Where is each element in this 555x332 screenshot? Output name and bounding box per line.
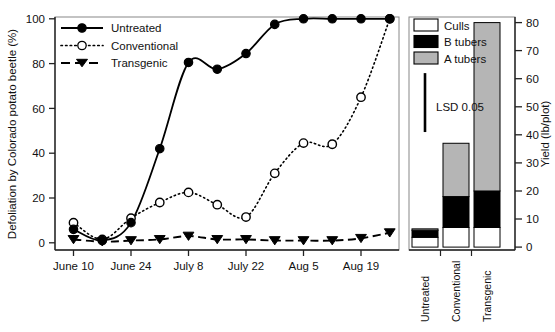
category-label-conventional: Conventional [450, 261, 462, 322]
figure-svg: 100 80 60 40 20 [0, 0, 555, 332]
left-y-tick-20: 20 [32, 192, 55, 204]
left-x-tick-aug-5: Aug 5 [288, 250, 318, 272]
category-label-transgenic: Transgenic [481, 270, 493, 322]
bar-segment-a-tubers [443, 143, 469, 196]
right-y-tick-label: 60 [526, 73, 539, 85]
lsd-label: LSD 0.05 [436, 101, 484, 113]
data-point-open-circle [271, 169, 279, 177]
left-y-tick-60: 60 [32, 103, 55, 115]
data-point-filled-circle [184, 58, 192, 66]
right-y-tick-label: 10 [526, 213, 539, 225]
stacked-bar-untreated[interactable] [412, 229, 438, 247]
data-point-filled-circle [357, 15, 365, 23]
left-y-tick-label: 20 [32, 192, 45, 204]
left-plot-frame [55, 17, 399, 250]
left-y-tick-label: 60 [32, 103, 45, 115]
legend-item-a-tubers[interactable]: A tubers [414, 52, 486, 65]
left-x-tick-label: July 8 [173, 260, 203, 272]
right-y-tick-label: 30 [526, 157, 539, 169]
data-point-filled-circle [328, 15, 336, 23]
left-x-tick-july-8: July 8 [173, 250, 203, 272]
data-point-open-circle [184, 188, 192, 196]
bar-segment-b-tubers [412, 230, 438, 237]
left-y-tick-label: 100 [26, 13, 45, 25]
legend-label: Culls [444, 20, 470, 32]
left-x-tick-label: July 22 [228, 260, 264, 272]
bar-segment-culls [474, 227, 500, 247]
legend-label: Untreated [111, 22, 162, 34]
left-x-tick-aug-19: Aug 19 [343, 250, 379, 272]
data-point-filled-circle [69, 225, 77, 233]
left-y-tick-100: 100 [26, 13, 55, 25]
data-point-open-circle [328, 140, 336, 148]
bar-segment-culls [443, 227, 469, 247]
right-y-tick-60: 60 [515, 73, 539, 85]
data-point-filled-circle [156, 145, 164, 153]
right-y-tick-label: 0 [526, 241, 532, 253]
right-y-tick-label: 80 [526, 17, 539, 29]
data-point-open-circle [299, 139, 307, 147]
left-y-tick-40: 40 [32, 147, 55, 159]
bar-segment-b-tubers [443, 197, 469, 228]
left-y-tick-80: 80 [32, 58, 55, 70]
right-y-tick-70: 70 [515, 45, 539, 57]
right-y-tick-40: 40 [515, 129, 539, 141]
data-point-filled-circle [213, 65, 221, 73]
left-y-tick-label: 80 [32, 58, 45, 70]
right-x-ticks [441, 250, 472, 256]
legend-label: Conventional [111, 40, 178, 52]
data-point-filled-circle [271, 20, 279, 28]
data-point-filled-circle [299, 15, 307, 23]
right-y-tick-20: 20 [515, 185, 539, 197]
left-x-tick-label: June 10 [53, 260, 94, 272]
right-y-tick-50: 50 [515, 101, 539, 113]
category-label-untreated: Untreated [419, 276, 431, 322]
right-y-tick-10: 10 [515, 213, 539, 225]
right-panel: 80 70 60 50 40 [409, 17, 551, 322]
left-legend: Untreated Conventional Transgenic [61, 22, 178, 69]
right-y-tick-80: 80 [515, 17, 539, 29]
data-point-filled-circle [98, 236, 106, 244]
left-y-axis-title: Defoliation by Colorado potato beetle (%… [6, 29, 18, 239]
stacked-bar-conventional[interactable] [443, 143, 469, 247]
left-x-ticks: June 10 June 24 July 8 July 22 Aug 5 [53, 250, 379, 272]
legend-label: A tubers [444, 53, 486, 65]
left-x-tick-july-22: July 22 [228, 250, 264, 272]
left-panel: 100 80 60 40 20 [6, 13, 399, 272]
a-tubers-swatch-icon [414, 52, 438, 64]
left-x-tick-label: June 24 [111, 260, 153, 272]
right-y-tick-label: 40 [526, 129, 539, 141]
legend-label: Transgenic [111, 57, 168, 69]
legend-item-b-tubers[interactable]: B tubers [414, 36, 487, 49]
right-y-ticks: 80 70 60 50 40 [515, 17, 539, 254]
open-circle-icon [78, 41, 86, 49]
right-y-tick-label: 50 [526, 101, 539, 113]
left-x-tick-june-24: June 24 [111, 250, 153, 272]
figure-container: 100 80 60 40 20 [0, 0, 555, 332]
data-point-open-circle [357, 93, 365, 101]
bar-segment-b-tubers [474, 191, 500, 227]
data-point-filled-circle [242, 49, 250, 57]
data-point-open-circle [156, 198, 164, 206]
right-y-tick-label: 70 [526, 45, 539, 57]
bar-segment-a-tubers [412, 229, 438, 230]
left-y-tick-label: 0 [39, 237, 45, 249]
left-y-tick-0: 0 [39, 237, 55, 249]
right-y-tick-label: 20 [526, 185, 539, 197]
left-y-ticks: 100 80 60 40 20 [26, 13, 55, 249]
culls-swatch-icon [414, 19, 438, 31]
right-y-axis-title: Yield (lb/plot) [539, 100, 551, 167]
filled-circle-icon [78, 24, 86, 32]
data-point-filled-circle [386, 15, 394, 23]
data-point-open-circle [242, 213, 250, 221]
left-y-tick-label: 40 [32, 147, 45, 159]
data-point-filled-circle [127, 218, 135, 226]
legend-label: B tubers [444, 36, 487, 48]
left-x-tick-label: Aug 5 [288, 260, 318, 272]
right-y-tick-0: 0 [515, 241, 532, 253]
bar-segment-culls [412, 237, 438, 247]
b-tubers-swatch-icon [414, 36, 438, 48]
left-x-tick-june-10: June 10 [53, 250, 94, 272]
right-category-labels: Untreated Conventional Transgenic [419, 261, 493, 322]
data-point-open-circle [213, 201, 221, 209]
